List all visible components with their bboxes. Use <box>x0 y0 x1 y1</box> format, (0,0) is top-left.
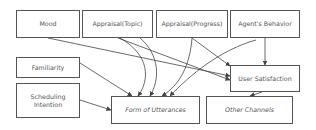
node-other-channels: Other Channels <box>206 96 293 124</box>
node-familiarity: Familiarity <box>16 57 80 78</box>
edge-appraisal-progress-user-satisfaction <box>192 38 230 66</box>
node-form-of-utterances: Form of Utterances <box>111 96 200 124</box>
node-scheduling-intention: Scheduling Intention <box>16 83 80 118</box>
node-user-satisfaction: User Satisfaction <box>230 65 300 92</box>
node-label: Other Channels <box>225 106 274 114</box>
node-label: Familiarity <box>32 64 65 72</box>
node-label: Agent's Behavior <box>238 20 292 28</box>
node-mood: Mood <box>16 10 80 38</box>
node-label: Scheduling Intention <box>25 93 71 109</box>
edge-familiarity-form <box>80 63 132 96</box>
edge-appraisal-topic-form <box>140 38 157 96</box>
node-label: Appraisal(Progress) <box>161 20 222 28</box>
node-appraisal-topic: Appraisal(Topic) <box>82 10 153 38</box>
node-label: User Satisfaction <box>238 75 291 83</box>
node-label: Mood <box>39 20 56 28</box>
edge-scheduling-form <box>80 100 111 110</box>
node-label: Appraisal(Topic) <box>92 20 142 28</box>
node-appraisal-progress: Appraisal(Progress) <box>156 10 228 38</box>
edge-appraisal-topic-user-satisfaction <box>118 38 230 80</box>
node-agents-behavior: Agent's Behavior <box>230 10 300 38</box>
node-label: Form of Utterances <box>125 106 186 114</box>
